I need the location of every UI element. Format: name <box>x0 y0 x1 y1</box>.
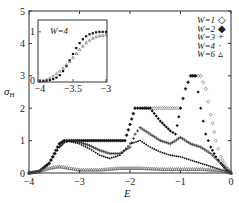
x-tick-label: −3 <box>74 176 85 187</box>
inset-x-tick-label: −3 <box>101 83 112 94</box>
y-tick-label: 1 <box>20 135 25 146</box>
inset-label: W=4 <box>50 26 69 36</box>
x-tick-label: 0 <box>229 176 234 187</box>
data-series <box>27 74 232 174</box>
legend-marker-icon: ▵ <box>218 48 223 59</box>
x-tick-label: −1 <box>175 176 186 187</box>
x-tick-label: −2 <box>125 176 136 187</box>
legend: W=1◇W=2◆W=3+W=4·W=6▵ <box>197 14 226 59</box>
y-tick-label: 4 <box>20 38 25 49</box>
inset-plot: W=4 −4−3.5−301 <box>30 20 111 94</box>
y-tick-label: 3 <box>20 70 25 81</box>
inset-y-tick-label: 1 <box>30 26 35 37</box>
series-w2 <box>27 74 232 174</box>
y-tick-label: 2 <box>20 103 25 114</box>
inset-y-tick-label: 0 <box>30 75 35 86</box>
x-tick-label: −4 <box>24 176 35 187</box>
inset-x-tick-label: −4 <box>35 83 46 94</box>
y-tick-label: 5 <box>20 6 25 17</box>
inset-x-tick-label: −3.5 <box>64 83 82 94</box>
x-axis-label: E <box>123 187 131 199</box>
hall-conductivity-chart: σH E 012345 −4−3−2−10 W=4 −4−3.5−301 W=1… <box>0 0 239 203</box>
inset-frame <box>38 20 107 82</box>
legend-label: W=6 <box>197 49 216 59</box>
y-axis-label: σH <box>4 85 15 99</box>
